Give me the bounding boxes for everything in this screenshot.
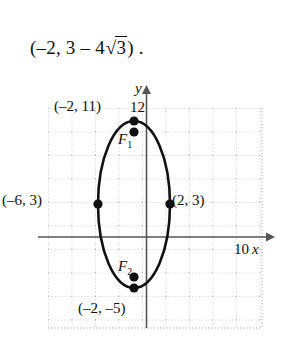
math-expression: (–2, 3 – 4√3) . xyxy=(30,36,144,59)
label-covertex-left: (–6, 3) xyxy=(2,192,42,209)
x-axis-label-group: 10x xyxy=(234,241,259,258)
y-axis-label: y xyxy=(135,80,142,97)
label-focus-lower-subscript: 2 xyxy=(127,266,132,277)
expression-prefix: (–2, 3 – 4 xyxy=(30,37,105,58)
label-focus-lower: F2 xyxy=(118,258,132,277)
point-vertex-top xyxy=(129,116,138,125)
radical-group: √3 xyxy=(105,36,127,59)
label-covertex-right: (2, 3) xyxy=(172,192,205,209)
expression-suffix: ) . xyxy=(127,37,143,58)
ellipse-plot: y 12 (–2, 11) (–6, 3) (2, 3) (–2, –5) F1… xyxy=(0,78,293,338)
label-focus-upper-letter: F xyxy=(118,131,127,147)
y-axis-arrow-icon xyxy=(142,85,151,94)
radicand: 3 xyxy=(115,36,127,59)
label-vertex-bottom: (–2, –5) xyxy=(78,300,126,317)
y-tick-label-12: 12 xyxy=(130,99,145,116)
label-vertex-top: (–2, 11) xyxy=(54,98,101,115)
grid xyxy=(48,108,262,328)
figure-root: (–2, 3 – 4√3) . xyxy=(0,0,293,338)
plot-svg xyxy=(0,78,293,338)
label-focus-upper-subscript: 1 xyxy=(127,139,132,150)
x-axis-label: x xyxy=(249,241,259,257)
point-vertex-bottom xyxy=(129,283,138,292)
x-tick-label-10: 10 xyxy=(234,241,249,257)
label-focus-upper: F1 xyxy=(118,131,132,150)
x-axis-arrow-icon xyxy=(266,233,275,242)
label-focus-lower-letter: F xyxy=(118,258,127,274)
point-covertex-left xyxy=(93,199,102,208)
